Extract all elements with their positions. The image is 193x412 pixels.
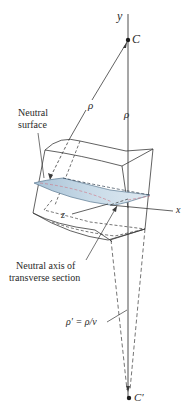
beam-top-face [45,139,153,166]
point-C-prime [127,396,131,400]
center-C-label: C [132,33,140,45]
rho-vertical-label: ρ [124,108,129,120]
center-C-prime-label: C′ [134,391,144,403]
neutral-axis-leader [86,206,117,260]
neutral-axis-label-2: transverse section [9,272,80,284]
rho-slanted-line [92,42,127,100]
beam-bending-diagram [0,0,193,412]
neutral-surface-label-2: surface [18,119,47,131]
rho-prime-leader [107,310,127,322]
x-axis [110,205,173,211]
z-axis-label: z [61,209,65,221]
neutral-axis-label-1: Neutral axis of [16,260,75,272]
converging-line-right [130,229,145,390]
z-axis [72,204,108,214]
x-axis-label: x [176,204,180,216]
point-C [126,38,130,42]
neutral-surface-label-1: Neutral [18,107,48,119]
y-axis-label: y [117,10,122,22]
rho-slanted-label: ρ [88,99,93,111]
rho-prime-formula: ρ′ = ρ/ν [66,316,97,328]
